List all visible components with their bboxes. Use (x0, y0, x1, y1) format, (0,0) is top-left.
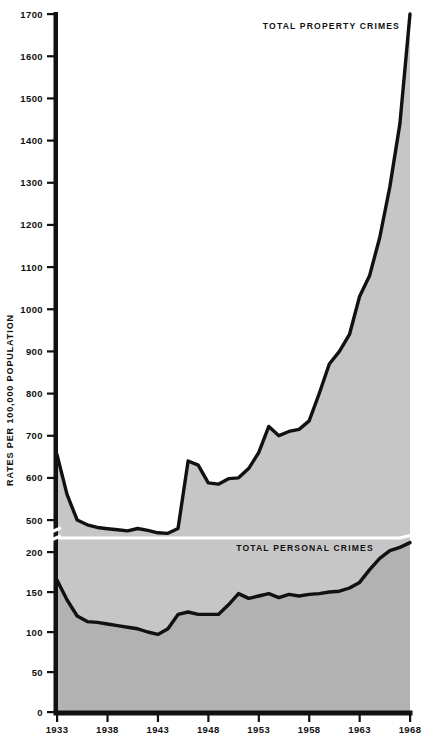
x-tick-mark (409, 715, 411, 722)
y-tick-mark (47, 224, 54, 226)
y-tick-mark (47, 591, 54, 593)
x-tick-label: 1948 (197, 724, 220, 735)
x-tick-label: 1943 (146, 724, 169, 735)
y-tick-label: 1100 (21, 262, 43, 273)
y-tick-label: 1400 (20, 135, 43, 146)
y-tick-mark (47, 350, 54, 352)
x-tick-label: 1953 (247, 724, 270, 735)
y-tick-mark (47, 140, 54, 142)
y-tick-label: 1300 (20, 177, 43, 188)
annotation-total-property-crimes: TOTAL PROPERTY CRIMES (263, 21, 400, 31)
y-tick-label: 1000 (20, 304, 43, 315)
y-tick-mark (47, 308, 54, 310)
y-axis-title: RATES PER 100,000 POPULATION (5, 314, 15, 486)
y-tick-mark (47, 266, 54, 268)
y-tick-label: 1500 (20, 93, 43, 104)
y-tick-label: 1200 (20, 219, 43, 230)
x-tick-mark (106, 715, 108, 722)
y-tick-label: 1700 (20, 9, 43, 20)
x-tick-mark (157, 715, 159, 722)
y-tick-label: 500 (26, 515, 43, 526)
y-tick-label: 700 (26, 430, 43, 441)
x-tick-mark (207, 715, 209, 722)
x-tick-mark (56, 715, 58, 722)
y-tick-label: 150 (26, 587, 43, 598)
x-tick-mark (308, 715, 310, 722)
x-axis-line (54, 711, 413, 716)
x-tick-mark (258, 715, 260, 722)
y-tick-mark (47, 711, 54, 713)
y-tick-mark (47, 671, 54, 673)
y-tick-mark (47, 435, 54, 437)
x-tick-label: 1968 (399, 724, 422, 735)
x-tick-label: 1963 (348, 724, 371, 735)
x-tick-label: 1938 (96, 724, 119, 735)
crime-rates-chart: 0501001502005006007008009001000110012001… (0, 0, 428, 742)
x-tick-label: 1933 (46, 724, 69, 735)
y-tick-mark (47, 182, 54, 184)
y-tick-mark (47, 631, 54, 633)
y-tick-label: 1600 (20, 51, 43, 62)
chart-canvas: 0501001502005006007008009001000110012001… (0, 0, 428, 742)
y-tick-mark (47, 393, 54, 395)
y-tick-label: 100 (26, 627, 43, 638)
y-tick-label: 600 (26, 472, 43, 483)
y-tick-label: 900 (26, 346, 43, 357)
y-tick-label: 0 (37, 707, 43, 718)
y-tick-label: 200 (26, 547, 43, 558)
y-tick-label: 50 (32, 667, 43, 678)
y-tick-label: 800 (26, 388, 43, 399)
y-tick-mark (47, 55, 54, 57)
y-tick-mark (47, 519, 54, 521)
annotation-total-personal-crimes: TOTAL PERSONAL CRIMES (236, 543, 374, 553)
y-tick-mark (47, 97, 54, 99)
y-tick-mark (47, 551, 54, 553)
y-axis-line (54, 12, 59, 713)
x-tick-mark (359, 715, 361, 722)
y-tick-mark (47, 477, 54, 479)
x-tick-label: 1958 (298, 724, 321, 735)
y-tick-mark (47, 13, 54, 15)
